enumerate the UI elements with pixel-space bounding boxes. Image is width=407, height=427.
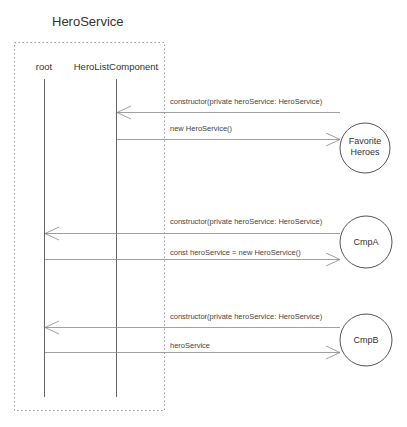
message-label: heroService [170, 341, 210, 350]
message-label: constructor(private heroService: HeroSer… [170, 312, 323, 321]
message-label: constructor(private heroService: HeroSer… [170, 217, 323, 226]
message-label: constructor(private heroService: HeroSer… [170, 97, 323, 106]
actor-label: CmpA [353, 237, 378, 247]
sequence-diagram: HeroService root HeroListComponent const… [0, 0, 407, 427]
actor-label: CmpB [353, 335, 378, 345]
message-label: const heroService = new HeroService() [170, 248, 301, 257]
actor-label: Favorite [349, 136, 382, 146]
message-label: new HeroService() [170, 124, 233, 133]
lifeline-root-label: root [36, 61, 53, 72]
diagram-title: HeroService [52, 14, 124, 29]
actor-label: Heroes [350, 147, 380, 157]
injector-boundary [15, 43, 165, 411]
lifeline-herolistcomponent-label: HeroListComponent [74, 61, 159, 72]
